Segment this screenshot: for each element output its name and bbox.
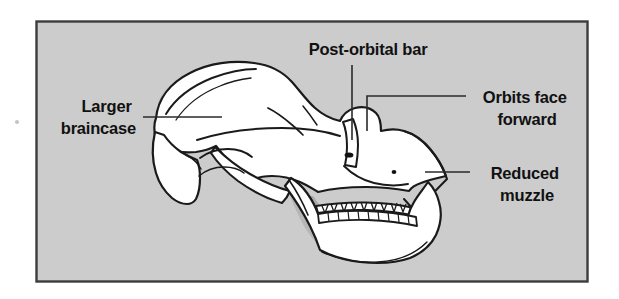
infraorbital-foramen-lower [392, 170, 397, 174]
label-post-orbital-bar: Post-orbital bar [309, 40, 429, 58]
skull-diagram-canvas: Larger braincase Post-orbital bar Orbits… [0, 0, 619, 299]
scan-speck-artifact [15, 120, 19, 124]
skull-diagram-figure: Larger braincase Post-orbital bar Orbits… [0, 0, 619, 299]
infraorbital-foramen-upper [345, 152, 354, 157]
